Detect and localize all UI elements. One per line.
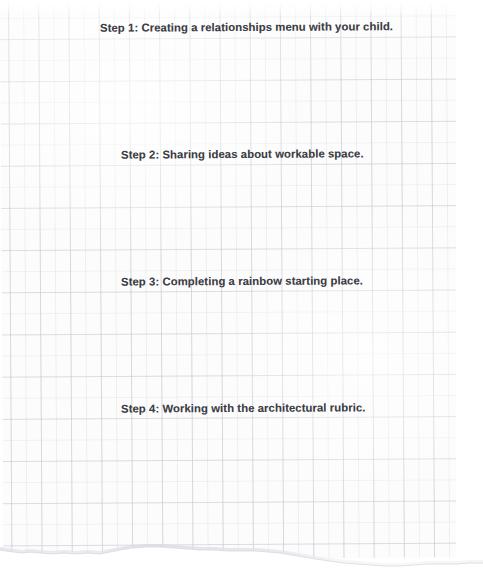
step-2-text: Step 2: Sharing ideas about workable spa…	[121, 148, 364, 161]
step-1-text: Step 1: Creating a relationships menu wi…	[100, 21, 393, 35]
scanned-page: Step 1: Creating a relationships menu wi…	[0, 0, 483, 581]
step-4-text: Step 4: Working with the architectural r…	[121, 402, 366, 415]
step-3-text: Step 3: Completing a rainbow starting pl…	[121, 275, 363, 288]
